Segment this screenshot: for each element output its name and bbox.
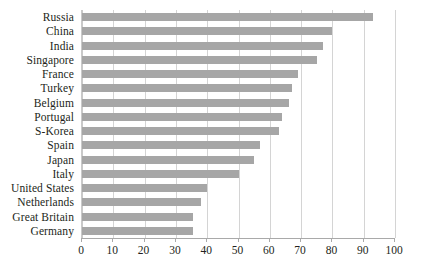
x-tick-label: 50 [232, 243, 244, 257]
bar [82, 113, 282, 121]
bar [82, 227, 193, 235]
category-label: S-Korea [0, 125, 78, 137]
category-label: Portugal [0, 111, 78, 123]
bar [82, 99, 289, 107]
bar-row [82, 82, 395, 94]
bar-row [82, 139, 395, 151]
bar-row [82, 40, 395, 52]
bar [82, 141, 260, 149]
bars-layer [82, 10, 395, 238]
category-label: Great Britain [0, 211, 78, 223]
x-tick [175, 238, 176, 242]
bar [82, 156, 254, 164]
bar-row [82, 154, 395, 166]
bar [82, 170, 239, 178]
bar [82, 184, 207, 192]
gridline [395, 10, 396, 238]
x-tick [269, 238, 270, 242]
x-tick [81, 238, 82, 242]
x-tick [331, 238, 332, 242]
bar-row [82, 54, 395, 66]
bar [82, 27, 332, 35]
category-label: Spain [0, 139, 78, 151]
x-tick [363, 238, 364, 242]
bar [82, 13, 373, 21]
bar [82, 84, 292, 92]
plot-area [81, 10, 395, 238]
category-label: Singapore [0, 54, 78, 66]
bar [82, 127, 279, 135]
bar-row [82, 125, 395, 137]
bar-row [82, 68, 395, 80]
x-tick-label: 60 [263, 243, 275, 257]
x-tick-label: 10 [107, 243, 119, 257]
category-label: Japan [0, 154, 78, 166]
category-label: India [0, 40, 78, 52]
x-axis-tick-labels: 0102030405060708090100 [81, 243, 394, 261]
bar [82, 70, 298, 78]
x-tick-label: 20 [138, 243, 150, 257]
x-tick-label: 100 [385, 243, 402, 257]
bar-row [82, 111, 395, 123]
category-label: China [0, 25, 78, 37]
category-label: Germany [0, 225, 78, 237]
bar-row [82, 168, 395, 180]
x-tick-label: 30 [169, 243, 181, 257]
x-tick [206, 238, 207, 242]
bar-chart: RussiaChinaIndiaSingaporeFranceTurkeyBel… [0, 0, 421, 273]
x-tick-label: 70 [294, 243, 306, 257]
x-tick [394, 238, 395, 242]
category-label: Italy [0, 168, 78, 180]
x-tick-label: 0 [78, 243, 84, 257]
bar [82, 56, 317, 64]
category-label: France [0, 68, 78, 80]
category-axis: RussiaChinaIndiaSingaporeFranceTurkeyBel… [0, 10, 78, 238]
bar-row [82, 25, 395, 37]
x-tick-label: 90 [357, 243, 369, 257]
x-tick-label: 80 [326, 243, 338, 257]
category-label: Belgium [0, 97, 78, 109]
category-label: Turkey [0, 82, 78, 94]
bar-row [82, 196, 395, 208]
bar-row [82, 11, 395, 23]
bar-row [82, 225, 395, 237]
x-tick [112, 238, 113, 242]
x-tick [300, 238, 301, 242]
bar-row [82, 182, 395, 194]
category-label: Russia [0, 11, 78, 23]
x-tick [144, 238, 145, 242]
category-label: United States [0, 182, 78, 194]
category-label: Netherlands [0, 196, 78, 208]
bar [82, 213, 193, 221]
x-tick-label: 40 [200, 243, 212, 257]
x-tick [238, 238, 239, 242]
bar [82, 42, 323, 50]
bar-row [82, 211, 395, 223]
bar-row [82, 97, 395, 109]
bar [82, 198, 201, 206]
